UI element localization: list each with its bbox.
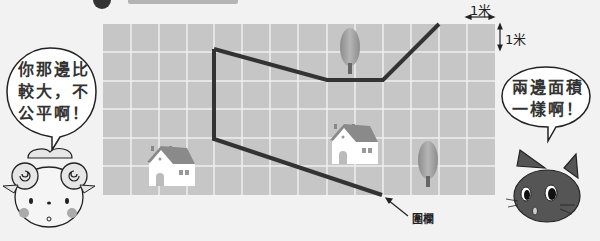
fence-label: 圍欄 (412, 210, 434, 226)
cat-character (506, 150, 580, 222)
cat-speech-line: 一樣啊！ (512, 99, 584, 121)
sheep-speech-line: 你那邊比 (18, 59, 90, 81)
horizontal-scale-label: 1米 (470, 0, 491, 19)
cat-speech-line: 兩邊面積 (512, 77, 584, 99)
vertical-scale-arrow (498, 24, 502, 50)
sheep-speech-text: 你那邊比 較大，不 公平啊！ (18, 59, 90, 125)
sheep-character (3, 149, 95, 227)
fence-pointer-arrow (386, 198, 408, 216)
vertical-scale-label: 1米 (505, 29, 526, 48)
sheep-speech-line: 較大，不 (18, 81, 90, 103)
sheep-speech-line: 公平啊！ (18, 103, 90, 125)
cat-speech-text: 兩邊面積 一樣啊！ (512, 77, 584, 121)
